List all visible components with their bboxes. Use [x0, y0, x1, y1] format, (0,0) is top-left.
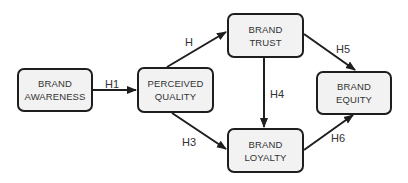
edge-quality-to-trust	[167, 32, 226, 67]
node-label-line: BRAND	[249, 138, 283, 151]
edge-label-h2: H	[185, 36, 193, 48]
node-label-line: BRAND	[38, 77, 72, 90]
edge-label-h1: H1	[105, 78, 119, 90]
node-brand-trust: BRAND TRUST	[227, 13, 304, 58]
node-label-line: EQUITY	[336, 93, 372, 106]
edge-loyalty-to-equity	[304, 115, 353, 150]
edge-label-h4: H4	[270, 88, 284, 100]
diagram-canvas: BRAND AWARENESS PERCEIVED QUALITY BRAND …	[0, 0, 408, 183]
node-label-line: PERCEIVED	[148, 77, 204, 90]
node-label-line: AWARENESS	[25, 90, 86, 103]
node-brand-awareness: BRAND AWARENESS	[17, 68, 93, 112]
edge-quality-to-loyalty	[172, 113, 226, 149]
node-label-line: BRAND	[337, 80, 371, 93]
node-brand-equity: BRAND EQUITY	[316, 71, 392, 115]
edge-label-h6: H6	[331, 132, 345, 144]
node-label-line: LOYALTY	[244, 151, 286, 164]
edge-label-h5: H5	[336, 43, 350, 55]
node-label-line: QUALITY	[155, 90, 196, 103]
node-label-line: BRAND	[249, 23, 283, 36]
node-perceived-quality: PERCEIVED QUALITY	[137, 67, 214, 113]
node-brand-loyalty: BRAND LOYALTY	[227, 128, 304, 173]
edge-label-h3: H3	[182, 136, 196, 148]
node-label-line: TRUST	[249, 36, 281, 49]
